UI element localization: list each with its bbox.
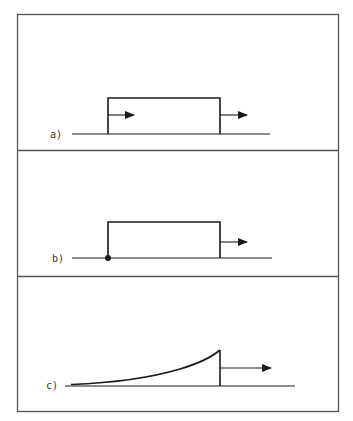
panel-label-c: c) (46, 380, 58, 391)
dot-icon (105, 255, 111, 261)
panel-c: c) (46, 350, 295, 391)
panel-b: b) (52, 222, 272, 264)
diagram-figure: a) b) c) (0, 0, 353, 421)
exponential-curve (71, 350, 220, 385)
rectangular-pulse (108, 98, 220, 134)
panel-a: a) (50, 98, 270, 140)
rectangular-pulse (108, 222, 220, 258)
panel-label-b: b) (52, 253, 64, 264)
panel-label-a: a) (50, 129, 62, 140)
outer-frame (18, 15, 339, 412)
